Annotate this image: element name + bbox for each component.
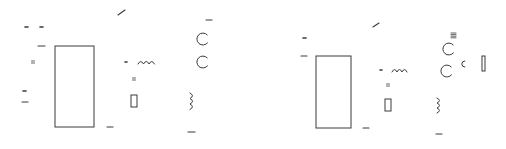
terminal-circle [197, 56, 208, 68]
main-block [316, 56, 351, 128]
label-mark [32, 61, 35, 63]
coil [190, 93, 193, 110]
coil [437, 98, 440, 113]
inductor [138, 62, 155, 65]
diagram-canvas [0, 0, 506, 149]
partial-arc [462, 61, 465, 67]
diagonal-wire [118, 10, 125, 15]
terminal-circle [443, 43, 454, 55]
label-mark [387, 84, 390, 86]
resistor [131, 95, 137, 107]
diagonal-wire [373, 23, 379, 27]
label-mark [451, 33, 456, 38]
terminal-circle [197, 33, 208, 45]
inductor [392, 70, 407, 73]
terminal-circle [441, 65, 452, 77]
resistor [385, 99, 391, 111]
panel-left [22, 10, 212, 132]
main-block [55, 46, 94, 127]
capacitor-plate [482, 56, 485, 71]
schematic-diagram [0, 0, 506, 149]
label-mark [133, 78, 136, 80]
panel-right [301, 23, 485, 134]
